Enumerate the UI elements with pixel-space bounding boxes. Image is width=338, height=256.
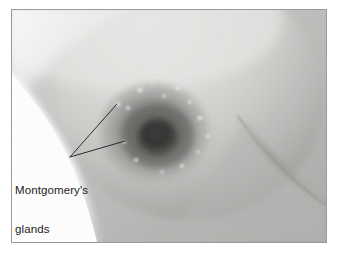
figure-plate-frame: Montgomery's glands [11,9,327,243]
annotation-label-line-1: Montgomery's [15,184,123,197]
annotation-label-line-2: glands [15,223,123,236]
annotation-label: Montgomery's glands [15,158,123,243]
nipple [138,119,178,155]
figure-root: Montgomery's glands [0,0,338,256]
